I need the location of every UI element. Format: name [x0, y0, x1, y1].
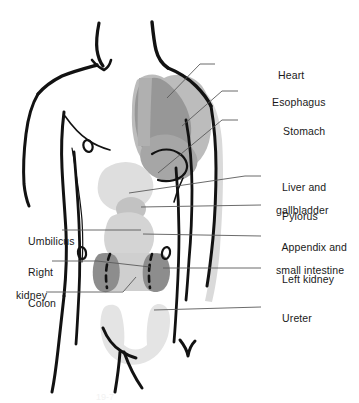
figure-caption: 19-7 — [96, 392, 114, 402]
label-esophagus-line1: Esophagus — [272, 96, 326, 108]
esophagus-shape — [138, 78, 152, 146]
label-umbilicus: Umbilicus — [16, 224, 75, 259]
label-pylorus: Pylorus — [270, 199, 318, 234]
leader-pylorus — [141, 205, 261, 207]
label-ureter: Ureter — [270, 301, 312, 336]
leader-appendix-small-intestine — [143, 234, 261, 236]
label-liver-gallbladder-line1: Liver and — [282, 181, 326, 193]
left-shoulder-line — [38, 65, 97, 94]
label-pylorus-line1: Pylorus — [282, 210, 318, 222]
neck-left-line — [97, 23, 103, 66]
left-pectoral-line — [65, 116, 110, 150]
label-appendix-small-intestine-line1: Appendix and — [282, 241, 347, 253]
label-umbilicus-line1: Umbilicus — [28, 235, 74, 247]
label-stomach-line1: Stomach — [283, 125, 325, 137]
ureter-bladder-shape — [100, 304, 170, 365]
organ-shading-group — [93, 74, 223, 364]
label-ureter-line1: Ureter — [282, 312, 312, 324]
anatomy-figure-page: Heart Esophagus Stomach Liver and gallbl… — [0, 0, 359, 403]
right-shoulder-line — [152, 22, 168, 68]
left-nipple-shape — [82, 139, 94, 153]
left-flank-line — [62, 112, 67, 296]
label-right-kidney-line1: Right — [28, 266, 53, 278]
label-stomach: Stomach — [271, 114, 325, 149]
label-left-kidney-line1: Left kidney — [282, 273, 334, 285]
label-heart-line1: Heart — [278, 69, 304, 81]
label-colon-line1: Colon — [28, 297, 56, 309]
label-colon: Colon — [16, 286, 56, 321]
leader-ureter — [154, 307, 261, 310]
label-left-kidney: Left kidney — [270, 262, 334, 297]
right-hip-hook-line — [180, 340, 195, 356]
left-arm-outer-line — [24, 94, 38, 206]
